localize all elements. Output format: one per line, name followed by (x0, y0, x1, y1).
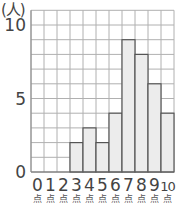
histogram-bar (135, 54, 148, 172)
y-tick-label: 10 (4, 15, 26, 35)
y-tick-label: 5 (15, 89, 26, 109)
x-unit-label: 点 (46, 194, 55, 204)
x-tick-label: 1 (45, 175, 56, 195)
histogram-bar (122, 40, 135, 172)
histogram-bar (148, 84, 161, 172)
x-unit-label: 点 (33, 194, 42, 204)
x-unit-label: 点 (85, 194, 94, 204)
x-tick-label: 6 (110, 175, 121, 195)
histogram-bar (161, 113, 174, 172)
x-unit-label: 点 (59, 194, 68, 204)
x-unit-label: 点 (137, 194, 146, 204)
x-tick-label: 10 (160, 179, 175, 194)
x-tick-label: 7 (123, 175, 134, 195)
x-tick-label: 3 (71, 175, 82, 195)
x-unit-label: 点 (98, 194, 107, 204)
x-tick-label: 8 (136, 175, 147, 195)
x-unit-label: 点 (150, 194, 159, 204)
x-tick-label: 0 (32, 175, 43, 195)
x-unit-label: 点 (111, 194, 120, 204)
histogram-bar (109, 113, 122, 172)
x-tick-label: 2 (58, 175, 69, 195)
x-tick-label: 9 (149, 175, 160, 195)
x-unit-label: 点 (124, 194, 133, 204)
x-tick-label: 4 (84, 175, 95, 195)
histogram-chart: 05100点1点2点3点4点5点6点7点8点9点10点 (0, 0, 183, 204)
x-unit-label: 点 (163, 194, 172, 204)
histogram-bar (70, 143, 83, 172)
histogram-bar (83, 128, 96, 172)
x-unit-label: 点 (72, 194, 81, 204)
x-tick-label: 5 (97, 175, 108, 195)
y-tick-label: 0 (15, 162, 26, 182)
histogram-bar (96, 143, 109, 172)
